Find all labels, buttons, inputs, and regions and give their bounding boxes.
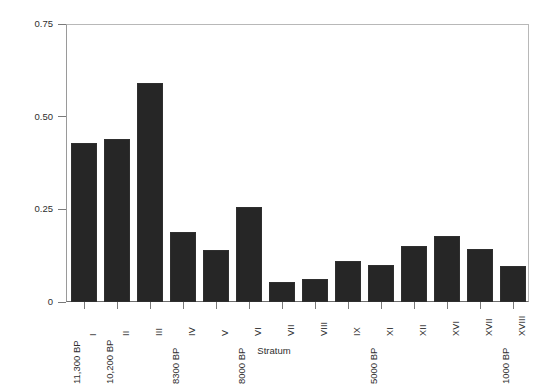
x-axis-tick-mark	[315, 302, 316, 309]
x-axis-tick-mark	[381, 302, 382, 309]
x-axis-tick-mark	[348, 302, 349, 309]
y-axis-tick-label: 0.75	[35, 18, 54, 29]
bar	[236, 207, 262, 302]
bar-chart-figure: Percent of Specimens per Stratum 00.250.…	[0, 0, 548, 388]
x-axis-tick-mark	[216, 302, 217, 309]
bar	[467, 249, 493, 302]
bar	[434, 236, 460, 302]
bar	[302, 279, 328, 302]
bar	[137, 83, 163, 302]
bar	[500, 266, 526, 302]
x-axis-ticks	[67, 302, 529, 310]
y-axis-tick-label: 0.25	[35, 203, 54, 214]
y-axis-tick-mark	[58, 116, 66, 117]
x-axis-tick-mark	[117, 302, 118, 309]
x-axis-tick-mark	[249, 302, 250, 309]
x-axis-tick-mark	[513, 302, 514, 309]
bar-series	[67, 24, 529, 302]
y-axis-tick-label: 0.50	[35, 111, 54, 122]
bar	[71, 143, 97, 302]
x-axis-tick-mark	[183, 302, 184, 309]
x-axis-title: Stratum	[0, 345, 548, 356]
x-axis-tick-mark	[150, 302, 151, 309]
x-axis-tick-mark	[84, 302, 85, 309]
x-axis-tick-mark	[447, 302, 448, 309]
bar	[401, 246, 427, 302]
bar	[368, 265, 394, 302]
bar	[170, 232, 196, 302]
x-axis-tick-mark	[480, 302, 481, 309]
bar	[335, 261, 361, 302]
y-axis-tick-mark	[58, 24, 66, 25]
x-axis-tick-mark	[282, 302, 283, 309]
y-axis-tick-label: 0	[48, 296, 53, 307]
bar	[269, 282, 295, 302]
y-axis-tick-mark	[58, 209, 66, 210]
y-axis-tick-mark	[58, 302, 66, 303]
x-axis-tick-mark	[414, 302, 415, 309]
bar	[203, 250, 229, 302]
bar	[104, 139, 130, 302]
